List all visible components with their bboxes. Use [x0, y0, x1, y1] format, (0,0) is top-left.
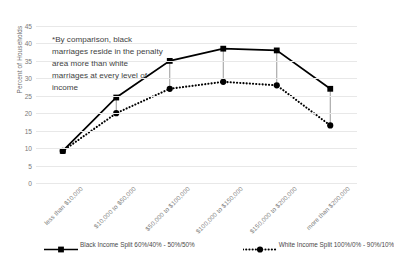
chart-legend: Black Income Split 60%/40% - 50%/50%Whit… — [36, 240, 357, 249]
x-axis-tick-label: less than $10,000 — [42, 185, 83, 226]
y-axis-tick-label: 15 — [25, 127, 32, 134]
gridline — [36, 96, 357, 97]
y-axis-tick-label: 40 — [25, 40, 32, 47]
data-point-marker — [274, 82, 280, 88]
gridline — [36, 166, 357, 167]
y-axis-tick-label: 5 — [28, 162, 32, 169]
data-point-marker — [327, 122, 333, 128]
legend-item: White Income Split 100%/0% - 90%/10% — [243, 240, 394, 249]
gridline — [36, 113, 357, 114]
y-axis-tick-label: 0 — [28, 180, 32, 187]
x-axis-tick-label: $10,000 to $50,000 — [93, 185, 138, 230]
x-axis-tick-label: $50,000 to $100,000 — [144, 185, 191, 232]
y-axis-tick-label: 30 — [25, 75, 32, 82]
chart-annotation: *By comparison, black marriages reside i… — [52, 34, 164, 94]
x-axis-labels: less than $10,000$10,000 to $50,000$50,0… — [36, 185, 357, 243]
x-axis-tick-label: $100,000 to $150,000 — [195, 185, 245, 235]
legend-dotted-line-icon — [243, 240, 277, 249]
legend-label: Black Income Split 60%/40% - 50%/50% — [80, 241, 195, 248]
data-point-marker — [220, 46, 226, 52]
data-point-marker — [167, 86, 173, 92]
gridline — [36, 26, 357, 27]
data-point-marker — [220, 79, 226, 85]
y-axis-title: Percent of Households — [16, 0, 23, 135]
gridline — [36, 148, 357, 149]
gridline — [36, 131, 357, 132]
y-axis-tick-label: 20 — [25, 110, 32, 117]
x-axis-tick-label: more than $200,000 — [305, 185, 351, 231]
legend-solid-line-icon — [44, 240, 78, 249]
legend-item: Black Income Split 60%/40% - 50%/50% — [44, 240, 195, 249]
data-point-marker — [327, 86, 333, 92]
data-point-marker — [274, 48, 280, 54]
legend-label: White Income Split 100%/0% - 90%/10% — [279, 241, 394, 248]
x-axis-tick-label: $150,000 to $200,000 — [248, 185, 298, 235]
gridline — [36, 183, 357, 184]
y-axis-tick-label: 35 — [25, 57, 32, 64]
y-axis-tick-label: 25 — [25, 92, 32, 99]
y-axis-tick-label: 10 — [25, 145, 32, 152]
y-axis-tick-label: 45 — [25, 23, 32, 30]
